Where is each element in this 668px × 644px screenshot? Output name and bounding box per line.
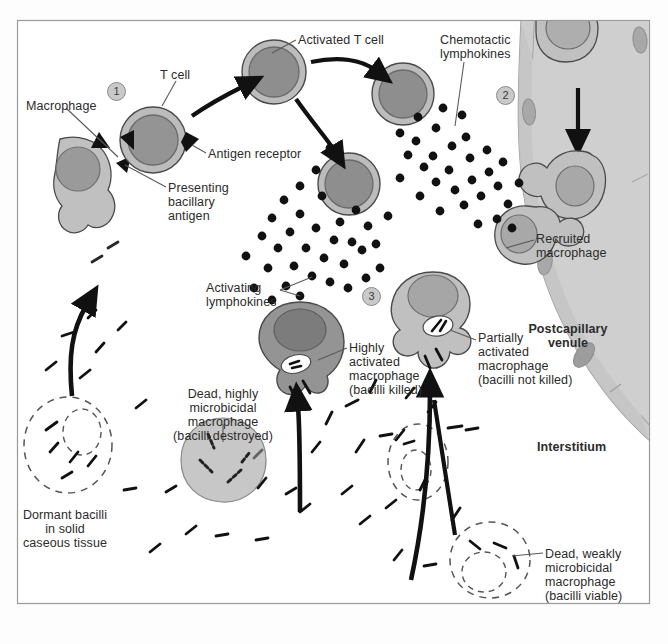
t-cell-nucleus <box>379 70 427 118</box>
step-marker-2: 2 <box>496 86 515 105</box>
label-dormant-bacilli: Dormant bacilli in solid caseous tissue <box>8 508 122 550</box>
label-activating-lymphokines: Activating lymphokines <box>206 281 277 309</box>
macrophage-nucleus <box>408 275 458 317</box>
step-marker-3: 3 <box>362 287 381 306</box>
label-dead-weakly-microbicidal: Dead, weakly microbicidal macrophage (ba… <box>545 547 622 603</box>
label-macrophage: Macrophage <box>26 99 97 113</box>
label-highly-activated-macrophage: Highly activated macrophage (bacilli kil… <box>349 341 422 397</box>
label-recruited-macrophage: Recruited macrophage <box>536 232 607 260</box>
t-cell-clone-1 <box>372 63 434 125</box>
t-cell-clone-2 <box>318 153 380 215</box>
t-cell-nucleus <box>249 47 299 97</box>
label-dead-highly-microbicidal: Dead, highly microbicidal macrophage (ba… <box>151 387 295 443</box>
arrow-to-highly-activated <box>298 406 300 512</box>
presenting-macrophage-nucleus <box>56 147 100 191</box>
macrophage-nucleus <box>274 309 326 351</box>
label-presenting-bacillary-antigen: Presenting bacillary antigen <box>168 181 229 223</box>
t-cell-activated <box>242 40 306 104</box>
label-partially-activated-macrophage: Partially activated macrophage (bacilli … <box>478 331 572 387</box>
label-interstitium: Interstitium <box>537 440 606 454</box>
t-cell-nucleus <box>325 160 373 208</box>
label-chemotactic-lymphokines: Chemotactic lymphokines <box>440 33 511 61</box>
label-antigen-receptor: Antigen receptor <box>208 147 301 161</box>
label-t-cell: T cell <box>160 68 190 82</box>
label-activated-t-cell: Activated T cell <box>298 33 384 47</box>
recruited-macrophage-1 <box>536 6 598 62</box>
t-cell-nucleus <box>128 115 178 165</box>
step-marker-1: 1 <box>107 82 126 101</box>
figure-canvas: Macrophage T cell Activated T cell Chemo… <box>0 0 668 644</box>
